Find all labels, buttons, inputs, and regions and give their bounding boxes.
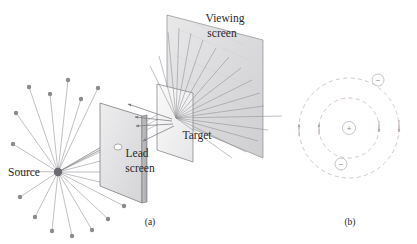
label-target: Target <box>183 129 213 142</box>
electron-inner-minus-sign: − <box>339 160 344 169</box>
label-viewing-screen-line2: screen <box>207 27 237 39</box>
target-foil-plane <box>157 84 193 162</box>
nucleus: + <box>343 122 356 135</box>
panel-a: Source Lead screen Target Viewing screen… <box>8 12 282 238</box>
label-viewing-screen-line1: Viewing <box>206 12 245 25</box>
source-dot <box>54 168 62 176</box>
caption-panel-b: (b) <box>344 217 355 228</box>
electron-outer-minus-sign: − <box>376 76 381 85</box>
lead-screen-aperture <box>114 144 122 150</box>
lead-screen-edge <box>142 115 147 203</box>
label-source: Source <box>8 166 40 178</box>
electron-inner: − <box>335 158 347 170</box>
label-lead-screen-line1: Lead <box>126 147 149 159</box>
target-foil <box>157 84 193 162</box>
nucleus-plus-sign: + <box>347 124 352 133</box>
electron-outer: − <box>372 74 384 86</box>
label-lead-screen-line2: screen <box>125 162 155 174</box>
caption-panel-a: (a) <box>145 217 156 228</box>
panel-b: + − − (b) <box>299 74 399 228</box>
figure-root: Source Lead screen Target Viewing screen… <box>0 0 417 244</box>
figure-canvas: Source Lead screen Target Viewing screen… <box>0 0 417 244</box>
